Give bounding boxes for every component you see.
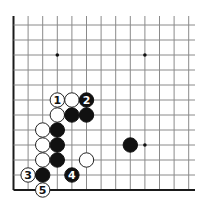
black-stone-icon xyxy=(50,153,64,167)
move-number-label: 1 xyxy=(53,94,61,107)
black-stone-4: 4 xyxy=(65,168,79,182)
black-stone xyxy=(65,108,79,122)
white-stone xyxy=(36,123,50,137)
white-stone xyxy=(50,108,64,122)
black-stone-icon xyxy=(50,123,64,137)
white-stone xyxy=(79,153,93,167)
black-stone-icon xyxy=(65,108,79,122)
black-stone xyxy=(79,108,93,122)
black-stone xyxy=(123,138,137,152)
black-stone xyxy=(50,153,64,167)
black-stone-icon xyxy=(36,168,50,182)
white-stone xyxy=(65,93,79,107)
white-stone-icon xyxy=(36,138,50,152)
white-stone-icon xyxy=(36,123,50,137)
black-stone-icon xyxy=(50,138,64,152)
black-stone xyxy=(36,168,50,182)
white-stone xyxy=(36,138,50,152)
white-stone-icon xyxy=(36,153,50,167)
go-board-diagram: 12345 xyxy=(0,0,207,209)
white-stone-icon xyxy=(65,93,79,107)
black-stone xyxy=(50,138,64,152)
white-stone-icon xyxy=(50,108,64,122)
star-point-icon xyxy=(143,143,147,147)
black-stone-2: 2 xyxy=(79,93,93,107)
black-stone-icon xyxy=(123,138,137,152)
move-number-label: 5 xyxy=(39,184,47,197)
white-stone-5: 5 xyxy=(36,183,50,197)
go-board: 12345 xyxy=(0,0,207,209)
move-number-label: 2 xyxy=(83,94,91,107)
white-stone-1: 1 xyxy=(50,93,64,107)
move-number-label: 3 xyxy=(24,169,32,182)
white-stone-icon xyxy=(79,153,93,167)
black-stone xyxy=(50,123,64,137)
black-stone-icon xyxy=(79,108,93,122)
star-point-icon xyxy=(143,53,147,57)
star-point-icon xyxy=(56,53,60,57)
white-stone-3: 3 xyxy=(21,168,35,182)
white-stone xyxy=(36,153,50,167)
move-number-label: 4 xyxy=(68,169,76,182)
